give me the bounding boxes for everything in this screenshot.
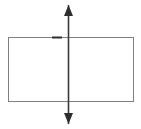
geometry-diagram: [0, 0, 141, 129]
figure-canvas: [0, 0, 141, 129]
canvas-background: [0, 0, 141, 129]
